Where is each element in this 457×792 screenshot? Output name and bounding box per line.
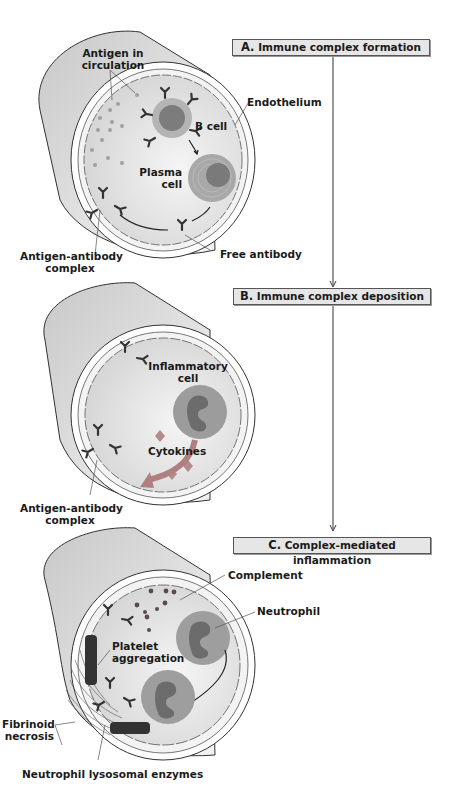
- label-neutrophil: Neutrophil: [257, 605, 320, 617]
- inflammatory-cell: [173, 385, 227, 439]
- label-free-antibody: Free antibody: [220, 248, 302, 260]
- label-inflammatory-cell: Inflammatory cell: [148, 360, 228, 384]
- label-plasma-cell: Plasma cell: [130, 166, 182, 190]
- stage-c-box: C. Complex-mediated inflammation: [233, 537, 431, 554]
- label-complement: Complement: [228, 569, 303, 581]
- label-b-cell: B cell: [195, 120, 227, 132]
- stage-a-box: A. Immune complex formation: [232, 39, 430, 56]
- label-cytokines: Cytokines: [148, 445, 206, 457]
- label-antigen-antibody-complex-b: Antigen-antibody complex: [20, 502, 120, 526]
- label-neutrophil-lysosomal-enzymes: Neutrophil lysosomal enzymes: [22, 768, 203, 780]
- diagram-canvas: [0, 0, 457, 792]
- label-antigen-in-circulation: Antigen in circulation: [78, 47, 148, 71]
- neutrophil-migrated: [141, 670, 195, 724]
- label-platelet-aggregation: Platelet aggregation: [112, 640, 184, 664]
- stage-b-box: B. Immune complex deposition: [233, 288, 431, 305]
- label-endothelium: Endothelium: [247, 96, 322, 108]
- vessel-b: [44, 283, 255, 505]
- label-antigen-antibody-complex-a: Antigen-antibody complex: [20, 250, 120, 274]
- plasma-cell: [188, 154, 236, 202]
- label-fibrinoid-necrosis: Fibrinoid necrosis: [2, 718, 54, 742]
